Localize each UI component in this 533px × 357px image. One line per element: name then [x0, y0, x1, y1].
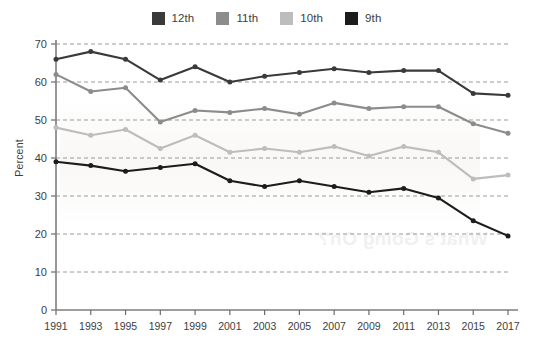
series-line-11th	[56, 74, 508, 133]
data-point	[262, 184, 267, 189]
x-axis-tick-label: 1995	[114, 320, 138, 332]
data-point	[332, 184, 337, 189]
data-point	[297, 112, 302, 117]
y-axis-tick-label: 40	[35, 152, 47, 164]
data-point	[123, 169, 128, 174]
data-point	[506, 233, 511, 238]
x-axis-tick-label: 1997	[149, 320, 173, 332]
data-point	[471, 218, 476, 223]
y-axis-tick-label: 50	[35, 114, 47, 126]
data-point	[123, 85, 128, 90]
x-axis-tick-label: 2011	[392, 320, 415, 332]
data-point	[193, 108, 198, 113]
x-axis-tick-label: 2013	[427, 320, 451, 332]
x-axis-tick-label: 2003	[253, 320, 277, 332]
data-point	[262, 146, 267, 151]
data-point	[366, 70, 371, 75]
data-point	[54, 125, 59, 130]
data-point	[158, 119, 163, 124]
data-point	[436, 104, 441, 109]
data-point	[193, 64, 198, 69]
y-axis-tick-label: 60	[35, 76, 47, 88]
y-axis-tick-label: 20	[35, 228, 47, 240]
data-point	[506, 173, 511, 178]
data-point	[227, 150, 232, 155]
data-point	[158, 78, 163, 83]
chart-svg: 0102030405060701991199319951997199920012…	[0, 0, 533, 357]
y-axis-tick-label: 10	[35, 266, 47, 278]
y-axis-tick-label: 0	[41, 304, 47, 316]
x-axis-tick-label: 2005	[288, 320, 312, 332]
data-point	[401, 104, 406, 109]
y-axis-tick-label: 30	[35, 190, 47, 202]
data-point	[506, 93, 511, 98]
data-point	[54, 72, 59, 77]
data-point	[158, 165, 163, 170]
chart-container: 12th 11th 10th 9th What's Going On? Perc…	[0, 0, 533, 357]
data-point	[297, 70, 302, 75]
data-point	[193, 161, 198, 166]
x-axis-tick-label: 1993	[79, 320, 103, 332]
x-axis-tick-label: 2009	[357, 320, 381, 332]
data-point	[366, 190, 371, 195]
data-point	[436, 150, 441, 155]
data-point	[471, 121, 476, 126]
data-point	[436, 68, 441, 73]
x-axis-tick-label: 2007	[322, 320, 346, 332]
data-point	[227, 110, 232, 115]
data-point	[506, 131, 511, 136]
data-point	[471, 91, 476, 96]
x-axis-tick-label: 1991	[44, 320, 68, 332]
data-point	[193, 133, 198, 138]
x-axis-tick-label: 2001	[218, 320, 242, 332]
x-axis-tick-label: 2015	[462, 320, 486, 332]
data-point	[54, 159, 59, 164]
data-point	[436, 195, 441, 200]
data-point	[366, 154, 371, 159]
data-point	[401, 68, 406, 73]
data-point	[366, 106, 371, 111]
data-point	[54, 57, 59, 62]
data-point	[123, 127, 128, 132]
data-point	[297, 150, 302, 155]
data-point	[332, 66, 337, 71]
data-point	[262, 74, 267, 79]
data-point	[297, 178, 302, 183]
x-axis-tick-label: 1999	[183, 320, 207, 332]
data-point	[471, 176, 476, 181]
data-point	[401, 144, 406, 149]
data-point	[401, 186, 406, 191]
data-point	[158, 146, 163, 151]
data-point	[262, 106, 267, 111]
data-point	[88, 133, 93, 138]
x-axis-tick-label: 2017	[496, 320, 520, 332]
data-point	[88, 89, 93, 94]
data-point	[227, 80, 232, 85]
data-point	[227, 178, 232, 183]
data-point	[88, 163, 93, 168]
y-axis-tick-label: 70	[35, 38, 47, 50]
plot-area: What's Going On? Percent 010203040506070…	[0, 0, 533, 357]
data-point	[123, 57, 128, 62]
data-point	[88, 49, 93, 54]
data-point	[332, 144, 337, 149]
data-point	[332, 100, 337, 105]
